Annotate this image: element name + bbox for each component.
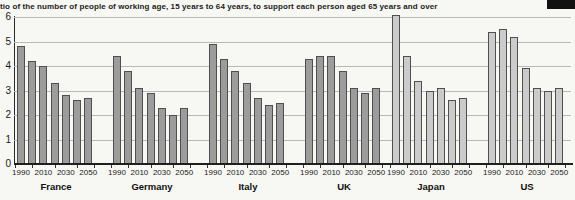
bar-uk-1990 — [305, 59, 313, 164]
y-axis-tick-label-4: 4 — [0, 60, 11, 71]
x-axis-tick — [486, 165, 487, 168]
bar-group-germany — [113, 17, 191, 164]
x-axis-tick — [407, 165, 408, 168]
y-axis-tick-label-6: 6 — [0, 11, 11, 22]
bar-uk-2020 — [339, 71, 347, 164]
year-tick-label-us-2050: 2050 — [548, 168, 570, 177]
year-tick-label-us-2030: 2030 — [526, 168, 548, 177]
bar-italy-1990 — [209, 44, 217, 164]
year-tick-label-france-1990: 1990 — [10, 168, 32, 177]
bar-germany-1990 — [113, 56, 121, 164]
x-axis-tick — [55, 165, 56, 168]
x-axis-tick — [343, 165, 344, 168]
year-tick-label-us-2010: 2010 — [503, 168, 525, 177]
x-axis-tick — [111, 165, 112, 168]
bar-uk-2000 — [316, 56, 324, 164]
x-axis-tick — [15, 165, 16, 168]
year-tick-label-japan-2050: 2050 — [452, 168, 474, 177]
bar-group-us — [488, 17, 566, 164]
bar-uk-2040 — [361, 93, 369, 164]
x-axis-tick — [320, 165, 321, 168]
x-axis-tick — [77, 165, 78, 168]
year-tick-label-germany-2050: 2050 — [173, 168, 195, 177]
year-tick-label-us-1990: 1990 — [481, 168, 503, 177]
scanned-chart-page: tio of the number of people of working a… — [0, 0, 575, 200]
year-tick-label-italy-2030: 2030 — [247, 168, 269, 177]
bar-us-2000 — [499, 29, 507, 164]
year-tick-label-japan-2010: 2010 — [407, 168, 429, 177]
x-axis-tick — [224, 165, 225, 168]
bar-italy-2010 — [231, 71, 239, 164]
x-axis-tick — [128, 165, 129, 168]
bar-group-france — [17, 17, 95, 164]
x-axis-tick — [452, 165, 453, 168]
chart-title: tio of the number of people of working a… — [0, 2, 437, 11]
year-tick-label-italy-2050: 2050 — [269, 168, 291, 177]
bar-france-2020 — [51, 83, 59, 164]
country-label-germany: Germany — [113, 181, 191, 192]
y-axis-tick-label-5: 5 — [0, 36, 11, 47]
x-axis-tick — [390, 165, 391, 168]
year-tick-label-germany-1990: 1990 — [106, 168, 128, 177]
country-label-japan: Japan — [392, 181, 470, 192]
x-axis-tick — [469, 165, 470, 168]
x-axis-tick — [365, 165, 366, 168]
bar-japan-2040 — [448, 100, 456, 164]
bar-us-2050 — [555, 88, 563, 164]
year-tick-label-italy-1990: 1990 — [202, 168, 224, 177]
x-axis-tick — [503, 165, 504, 168]
x-axis-tick — [32, 165, 33, 168]
x-axis-tick — [382, 165, 383, 168]
year-tick-label-france-2010: 2010 — [32, 168, 54, 177]
bar-france-2000 — [28, 61, 36, 164]
bar-france-2040 — [73, 100, 81, 164]
year-tick-label-france-2030: 2030 — [55, 168, 77, 177]
bar-us-2010 — [510, 37, 518, 164]
bar-italy-2000 — [220, 59, 228, 164]
bar-italy-2040 — [265, 105, 273, 164]
y-axis-tick-label-3: 3 — [0, 85, 11, 96]
x-axis-tick — [303, 165, 304, 168]
x-axis-tick — [247, 165, 248, 168]
scan-artifact-black-box — [547, 0, 575, 9]
year-tick-label-germany-2030: 2030 — [151, 168, 173, 177]
x-axis-tick — [548, 165, 549, 168]
bar-france-1990 — [17, 46, 25, 164]
bar-japan-2050 — [459, 98, 467, 164]
bar-france-2030 — [62, 95, 70, 164]
year-tick-label-germany-2010: 2010 — [128, 168, 150, 177]
year-tick-label-uk-2030: 2030 — [343, 168, 365, 177]
country-label-us: US — [488, 181, 566, 192]
bar-us-2040 — [544, 91, 552, 165]
bar-germany-2010 — [135, 88, 143, 164]
bar-germany-2020 — [147, 93, 155, 164]
y-axis-tick-label-1: 1 — [0, 134, 11, 145]
bar-us-2030 — [533, 88, 541, 164]
country-label-italy: Italy — [209, 181, 287, 192]
bar-group-japan — [392, 17, 470, 164]
bar-group-italy — [209, 17, 287, 164]
x-axis-tick — [269, 165, 270, 168]
bar-japan-1990 — [392, 15, 400, 164]
bar-france-2050 — [84, 98, 92, 164]
bar-us-1990 — [488, 32, 496, 164]
year-tick-label-uk-2050: 2050 — [365, 168, 387, 177]
x-axis-tick — [286, 165, 287, 168]
bar-italy-2050 — [276, 103, 284, 164]
bar-japan-2030 — [437, 88, 445, 164]
x-axis-tick — [430, 165, 431, 168]
plot-area — [14, 17, 571, 164]
bar-germany-2030 — [158, 108, 166, 164]
x-axis-tick — [526, 165, 527, 168]
year-tick-label-uk-1990: 1990 — [298, 168, 320, 177]
y-axis-tick-label-2: 2 — [0, 109, 11, 120]
x-axis-tick — [151, 165, 152, 168]
x-axis-tick — [190, 165, 191, 168]
year-tick-label-japan-1990: 1990 — [385, 168, 407, 177]
y-axis-tick-label-0: 0 — [0, 158, 11, 169]
country-label-uk: UK — [305, 181, 383, 192]
bar-uk-2030 — [350, 88, 358, 164]
year-tick-label-japan-2030: 2030 — [430, 168, 452, 177]
bar-france-2010 — [39, 66, 47, 164]
country-label-france: France — [17, 181, 95, 192]
